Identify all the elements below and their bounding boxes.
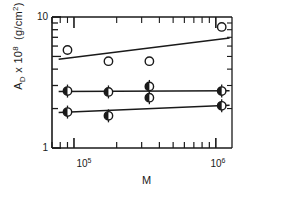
axis-lines <box>52 17 232 148</box>
fit-lines <box>59 38 230 112</box>
plot-canvas <box>0 0 293 199</box>
fit-line-half-filled-circles-middle <box>59 91 230 92</box>
marker-open-circles-upper-2 <box>145 57 153 65</box>
marker-open-circles-upper-3 <box>218 23 226 31</box>
fit-line-open-circles-upper <box>59 38 230 59</box>
axis-ticks <box>52 17 232 148</box>
chart-figure: AD x 108(g/cm2) 10 1 105 106 M <box>0 0 293 199</box>
fit-line-half-filled-circles-lower <box>59 105 230 112</box>
marker-open-circles-upper-1 <box>104 57 112 65</box>
marker-open-circles-upper-0 <box>63 46 71 54</box>
data-markers <box>63 23 226 123</box>
